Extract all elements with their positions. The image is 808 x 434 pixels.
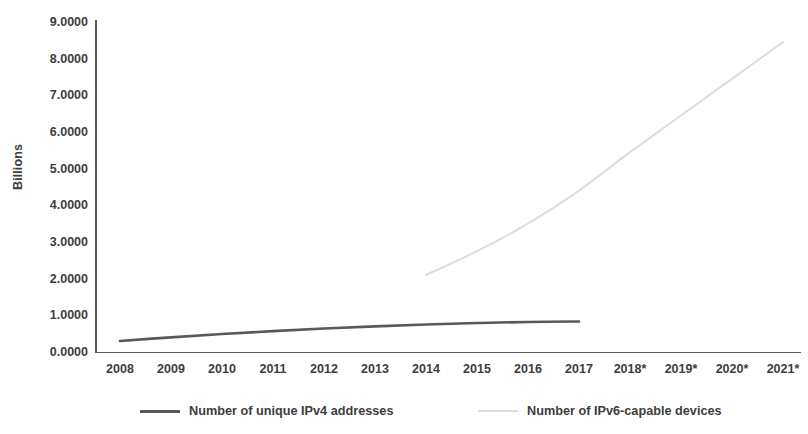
line-chart: Billions 0.00001.00002.00003.00004.00005… [0,0,808,434]
legend-item-label: Number of unique IPv4 addresses [189,404,393,418]
legend-line-swatch-icon [140,405,180,417]
x-axis-tick-label: 2021* [753,362,808,376]
legend-item-ipv6[interactable]: Number of IPv6-capable devices [478,400,722,422]
legend-item-label: Number of IPv6-capable devices [527,404,722,418]
legend-line-swatch-icon [478,405,518,417]
series-line-ipv4 [120,322,579,341]
series-line-ipv6 [426,42,783,275]
legend-item-ipv4[interactable]: Number of unique IPv4 addresses [140,400,393,422]
x-axis-tick-labels: 2008200920102011201220132014201520162017… [0,362,808,384]
chart-legend: Number of unique IPv4 addresses Number o… [0,400,808,430]
